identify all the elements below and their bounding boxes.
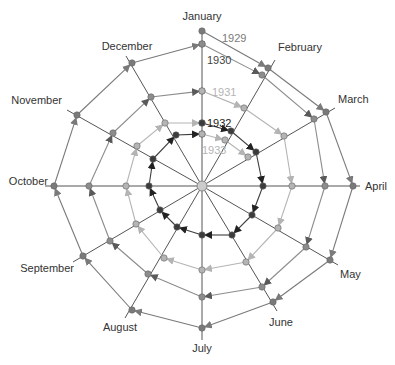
month-label-december: December	[102, 40, 153, 52]
data-point	[311, 116, 317, 122]
data-point	[133, 221, 139, 227]
segment	[248, 228, 278, 260]
segment	[205, 262, 246, 269]
data-point	[199, 120, 205, 126]
segment	[150, 189, 160, 210]
month-label-august: August	[103, 321, 137, 333]
data-point	[162, 120, 168, 126]
segment	[153, 137, 174, 159]
data-point	[80, 253, 86, 259]
year-label-1931: 1931	[212, 86, 236, 98]
segment	[331, 186, 353, 257]
month-label-june: June	[269, 316, 293, 328]
month-label-september: September	[20, 262, 74, 274]
month-label-october: October	[9, 175, 48, 187]
segment	[126, 149, 136, 186]
data-point	[253, 149, 259, 155]
data-point	[281, 133, 287, 139]
segment	[77, 65, 130, 115]
data-point	[199, 294, 205, 300]
segment	[275, 260, 330, 300]
spoke-august	[125, 186, 202, 318]
data-point	[199, 232, 205, 238]
data-point	[323, 109, 329, 115]
data-point	[260, 183, 266, 189]
year-label-1933: 1933	[202, 144, 226, 156]
month-label-july: July	[192, 342, 212, 354]
data-point	[245, 154, 251, 160]
data-point	[322, 183, 328, 189]
data-point	[199, 88, 205, 94]
data-point	[134, 143, 140, 149]
data-point	[51, 183, 57, 189]
segment	[85, 258, 132, 310]
segment	[314, 119, 325, 183]
data-point	[249, 212, 255, 218]
month-label-january: January	[182, 10, 222, 22]
segment	[279, 186, 292, 225]
data-point	[275, 225, 281, 231]
spoke-may	[202, 186, 338, 265]
data-point	[174, 224, 180, 230]
data-point	[229, 232, 235, 238]
data-point	[86, 183, 92, 189]
data-point	[110, 130, 116, 136]
data-point	[199, 28, 205, 34]
data-point	[259, 284, 265, 290]
data-point	[270, 299, 276, 305]
segment	[167, 259, 202, 270]
center-marker	[197, 181, 207, 191]
data-point	[150, 156, 156, 162]
segment	[135, 311, 202, 328]
data-point	[161, 255, 167, 261]
segment	[127, 189, 136, 224]
month-label-may: May	[340, 268, 361, 280]
data-point	[123, 183, 129, 189]
data-point	[303, 244, 309, 250]
data-point	[173, 132, 179, 138]
year-series	[51, 28, 356, 331]
year-label-1930: 1930	[207, 54, 231, 66]
data-point	[199, 41, 205, 47]
segment	[112, 243, 148, 274]
data-point	[146, 183, 152, 189]
data-point	[289, 183, 295, 189]
year-label-1929: 1929	[222, 32, 246, 44]
segment	[89, 136, 112, 186]
series-1929	[51, 28, 356, 331]
data-point	[222, 137, 228, 143]
segment	[113, 99, 149, 133]
data-point	[243, 259, 249, 265]
data-point	[145, 271, 151, 277]
segment	[326, 112, 352, 183]
month-label-april: April	[365, 180, 387, 192]
data-point	[107, 238, 113, 244]
data-point	[148, 94, 154, 100]
segment	[149, 162, 153, 186]
segment	[137, 125, 163, 146]
segment	[264, 247, 306, 285]
month-label-march: March	[338, 93, 369, 105]
segment	[256, 152, 262, 183]
segment	[225, 140, 246, 155]
segment	[205, 287, 262, 297]
segment	[205, 302, 273, 327]
segment	[284, 136, 292, 183]
data-point	[350, 183, 356, 189]
year-label-1932: 1932	[207, 117, 231, 129]
segment	[151, 275, 202, 297]
data-point	[327, 257, 333, 263]
data-point	[157, 207, 163, 213]
segment	[54, 118, 76, 186]
segment	[90, 189, 110, 241]
segment	[253, 186, 263, 212]
data-point	[199, 325, 205, 331]
data-point	[129, 60, 135, 66]
month-labels: JanuaryFebruaryMarchAprilMayJuneJulyAugu…	[9, 10, 387, 354]
series-1931	[123, 88, 295, 273]
segment	[307, 186, 325, 244]
spiral-chart: JanuaryFebruaryMarchAprilMayJuneJulyAugu…	[0, 0, 395, 365]
data-point	[241, 105, 247, 111]
data-point	[199, 267, 205, 273]
data-point	[259, 72, 265, 78]
